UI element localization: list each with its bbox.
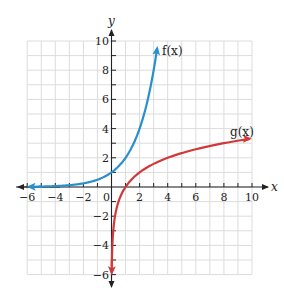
- grid-lines: [27, 41, 252, 275]
- x-tick-label: 4: [164, 191, 171, 204]
- x-tick-label: 8: [220, 191, 227, 204]
- y-axis-label: y: [107, 14, 115, 28]
- y-tick-label: 8: [102, 64, 109, 77]
- graph: −6−4−20246810 −6−4−2246810 x y f(x) g(x): [0, 0, 284, 300]
- x-tick-label: −6: [19, 191, 35, 204]
- y-tick-label: −2: [93, 210, 109, 223]
- y-tick-label: −6: [93, 269, 109, 282]
- x-tick-label: −4: [47, 191, 63, 204]
- y-tick-label: 4: [102, 123, 109, 136]
- y-tick-label: 10: [95, 35, 109, 48]
- f-label: f(x): [162, 44, 183, 58]
- y-tick-label: 6: [102, 93, 109, 106]
- x-tick-labels: −6−4−20246810: [19, 191, 259, 204]
- x-tick-label: 2: [136, 191, 143, 204]
- x-tick-label: 10: [245, 191, 259, 204]
- x-tick-label: −2: [75, 191, 91, 204]
- x-tick-label: 0: [103, 191, 110, 204]
- x-tick-label: 6: [192, 191, 199, 204]
- x-axis-label: x: [271, 180, 278, 194]
- y-tick-label: 2: [102, 152, 109, 165]
- y-tick-label: −4: [93, 239, 109, 252]
- g-label: g(x): [230, 125, 254, 139]
